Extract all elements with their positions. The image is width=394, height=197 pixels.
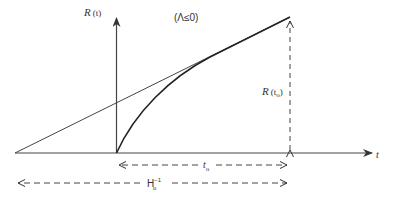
scale-factor-diagram: R(t) (Λ≤0) R(to) t to H−1o [0,0,394,197]
t0-span-label: to [203,159,210,173]
hubble-span-label: H−1o [147,177,162,191]
condition-label: (Λ≤0) [174,12,198,23]
time-axis-label: t [376,149,379,160]
r-axis-label: R(t) [83,6,101,18]
r-t0-label: R(to) [261,85,283,99]
